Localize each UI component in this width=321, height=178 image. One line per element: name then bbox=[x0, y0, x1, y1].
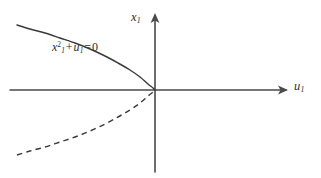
y-axis-label-variable: x bbox=[131, 10, 137, 24]
curve-equation-annotation: x21+u1=0 bbox=[52, 41, 98, 53]
bifurcation-diagram-figure: x1 u1 x21+u1=0 bbox=[0, 0, 321, 178]
x-axis-label: u1 bbox=[294, 80, 304, 93]
x-axis-group bbox=[10, 86, 288, 95]
equation-variable-u: u bbox=[74, 40, 80, 54]
equation-subscript-u: 1 bbox=[80, 46, 84, 55]
equation-plus-operator: + bbox=[65, 40, 74, 54]
equation-value: 0 bbox=[92, 40, 98, 54]
x-axis-label-subscript: 1 bbox=[300, 85, 304, 94]
equation-equals-operator: = bbox=[83, 40, 92, 54]
equation-subscript-x: 1 bbox=[61, 46, 65, 55]
plot-canvas bbox=[0, 0, 321, 178]
curve-upper-branch-solid bbox=[17, 25, 155, 90]
y-axis-label: x1 bbox=[131, 11, 140, 24]
curve-lower-branch-dashed bbox=[17, 90, 155, 155]
y-axis-label-subscript: 1 bbox=[137, 16, 141, 25]
